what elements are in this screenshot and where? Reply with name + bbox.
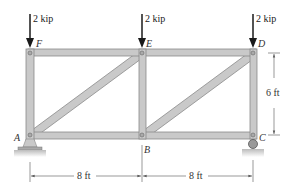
span-left-label: 8 ft (77, 170, 91, 181)
load-label-D: 2 kip (256, 13, 276, 24)
span-right-label: 8 ft (189, 170, 203, 181)
member-AE (28, 51, 145, 138)
truss-diagram: 2 kip 2 kip 2 kip F E D A B C 6 ft 8 ft … (0, 0, 293, 196)
joint-label-B: B (144, 144, 150, 155)
joint-label-E: E (145, 38, 152, 49)
pin-D (251, 51, 255, 55)
member-BE (139, 49, 146, 139)
member-CD (250, 49, 257, 139)
member-AF (26, 49, 34, 141)
member-BD (140, 51, 256, 139)
load-arrows (26, 14, 257, 48)
joint-label-A: A (13, 132, 21, 143)
span-dimension (30, 145, 253, 182)
load-label-E: 2 kip (145, 13, 165, 24)
height-dimension-label: 6 ft (266, 87, 280, 98)
pin-A (28, 133, 32, 137)
pin-B (140, 133, 144, 137)
joint-label-C: C (259, 132, 266, 143)
pin-C (251, 133, 255, 137)
pin-F (28, 51, 32, 55)
truss-members (26, 49, 257, 141)
joint-label-F: F (35, 38, 43, 49)
pin-E (140, 51, 144, 55)
load-label-F: 2 kip (33, 13, 53, 24)
joint-label-D: D (257, 38, 266, 49)
